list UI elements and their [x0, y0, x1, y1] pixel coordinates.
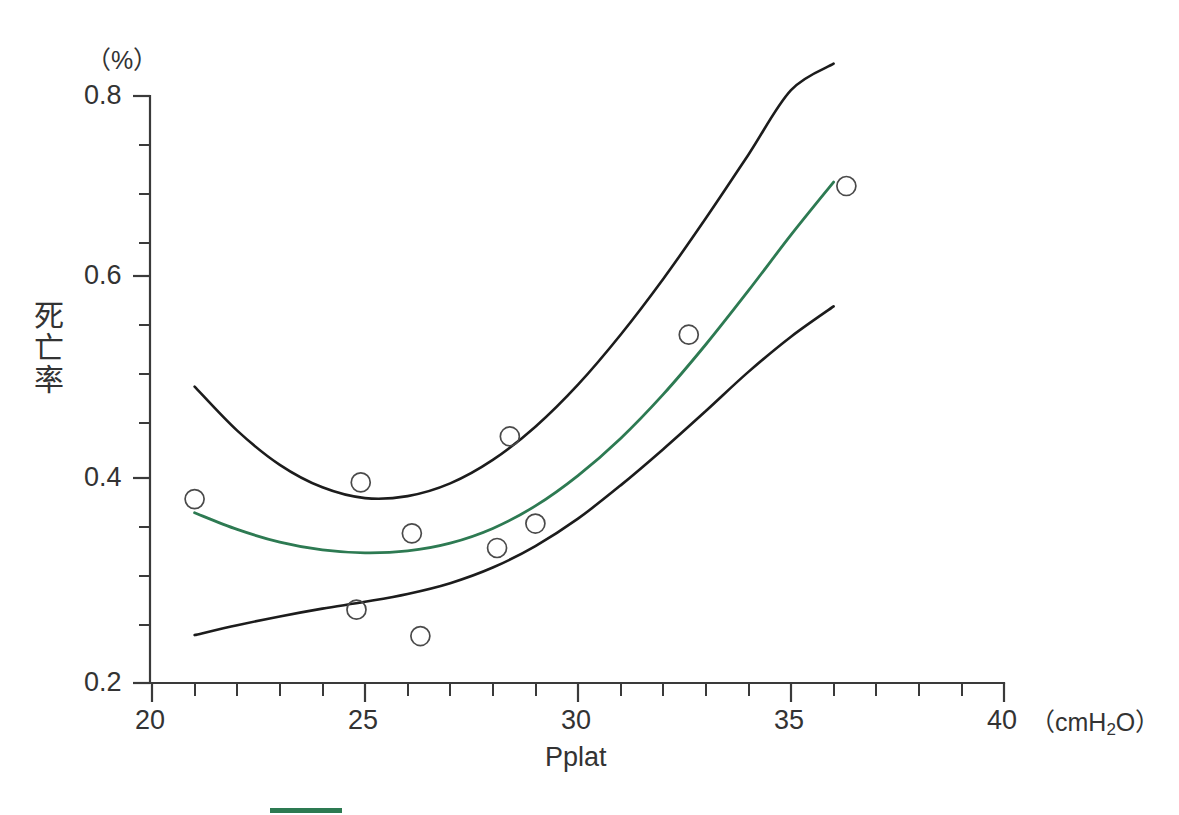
x-unit-suffix: O）: [1116, 708, 1160, 736]
chart-plot-svg: [0, 0, 1179, 815]
y-tick-label-0.2: 0.2: [84, 669, 122, 696]
data-point-markers: [185, 177, 856, 646]
data-point-marker: [679, 325, 698, 344]
x-tick-label-40: 40: [987, 707, 1017, 734]
fitted-mortality-curve: [195, 182, 834, 553]
x-unit-subscript: 2: [1106, 720, 1115, 739]
x-axis-title: Pplat: [545, 744, 607, 771]
x-unit-prefix: （cmH: [1030, 708, 1106, 736]
y-axis-ticks: [133, 145, 150, 683]
data-point-marker: [500, 427, 519, 446]
legend-fit-line-swatch: [270, 808, 342, 813]
x-tick-label-30: 30: [561, 707, 591, 734]
upper-confidence-curve: [195, 64, 834, 499]
y-tick-label-0.6: 0.6: [84, 262, 122, 289]
data-point-marker: [351, 473, 370, 492]
chart-canvas: （%） 0.8 0.6 0.4 0.2 死亡率 20 25 30 35 40 （…: [0, 0, 1179, 815]
y-tick-label-0.4: 0.4: [84, 464, 122, 491]
x-axis-unit-label: （cmH2O）: [1030, 710, 1160, 735]
y-tick-label-0.8: 0.8: [84, 82, 122, 109]
data-point-marker: [488, 538, 507, 557]
data-point-marker: [837, 177, 856, 196]
data-point-marker: [526, 514, 545, 533]
x-tick-label-35: 35: [774, 707, 804, 734]
x-axis-ticks: [152, 683, 962, 702]
data-point-marker: [402, 524, 421, 543]
y-axis-title: 死亡率: [24, 300, 68, 396]
y-axis: [133, 96, 150, 683]
data-point-marker: [185, 490, 204, 509]
x-tick-label-20: 20: [135, 707, 165, 734]
y-axis-unit-label: （%）: [86, 48, 158, 73]
data-point-marker: [411, 627, 430, 646]
x-tick-label-25: 25: [348, 707, 378, 734]
